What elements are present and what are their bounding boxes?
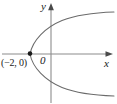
parabola-figure: y x 0 (−2, 0) <box>0 0 117 104</box>
vertex-point-marker <box>28 51 33 56</box>
vertex-point-label: (−2, 0) <box>1 58 27 68</box>
origin-label: 0 <box>40 55 46 66</box>
y-axis-arrow-icon <box>48 3 54 10</box>
y-axis-label: y <box>41 1 46 12</box>
parabola-upper-branch <box>30 12 114 54</box>
x-axis-arrow-icon <box>106 51 114 57</box>
x-axis-label: x <box>104 58 109 69</box>
graph-canvas <box>0 0 117 104</box>
